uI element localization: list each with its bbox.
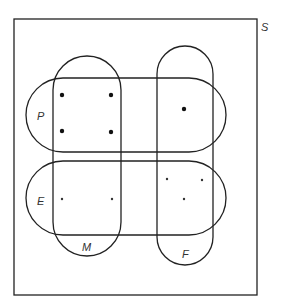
dot-marker — [182, 107, 186, 111]
dot-marker — [109, 130, 113, 134]
set-m-label: M — [82, 241, 92, 253]
star-marker — [201, 179, 203, 181]
e-and-f-stars — [166, 178, 203, 200]
dot-marker — [60, 129, 64, 133]
star-marker — [61, 198, 63, 200]
p-and-m-dots — [60, 93, 113, 134]
star-marker — [183, 198, 185, 200]
star-marker — [166, 178, 168, 180]
set-p-label: P — [37, 110, 45, 122]
set-e-shape — [26, 161, 226, 235]
universe-rect — [14, 19, 257, 295]
venn-diagram: S P E M F — [0, 0, 284, 306]
set-f-label: F — [182, 248, 190, 260]
e-and-m-stars — [61, 198, 113, 200]
star-marker — [111, 198, 113, 200]
set-m-shape — [53, 56, 121, 256]
dot-marker — [109, 93, 113, 97]
dot-marker — [60, 93, 64, 97]
universe-label: S — [261, 21, 269, 33]
set-p-shape — [26, 78, 226, 152]
p-and-f-dots — [182, 107, 186, 111]
set-e-label: E — [37, 195, 45, 207]
